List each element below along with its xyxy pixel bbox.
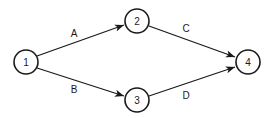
node-4-label: 4 [245,57,251,68]
node-1-label: 1 [23,57,29,68]
edge-a: A [37,25,124,56]
node-2: 2 [125,9,149,33]
node-4: 4 [236,50,260,74]
network-diagram: A B C D 1 2 3 4 [0,0,274,118]
edge-c: C [149,23,235,58]
edge-a-line [37,25,124,56]
edge-c-label: C [182,23,189,34]
edge-d-label: D [182,90,189,101]
node-3: 3 [125,88,149,112]
edge-a-label: A [71,28,78,39]
edge-d: D [149,67,235,101]
edge-b-line [37,68,124,96]
edge-c-line [149,26,235,57]
edge-b: B [37,68,124,96]
edge-d-line [149,67,235,96]
edge-b-label: B [71,84,78,95]
node-3-label: 3 [134,95,140,106]
node-1: 1 [14,50,38,74]
node-2-label: 2 [134,16,140,27]
